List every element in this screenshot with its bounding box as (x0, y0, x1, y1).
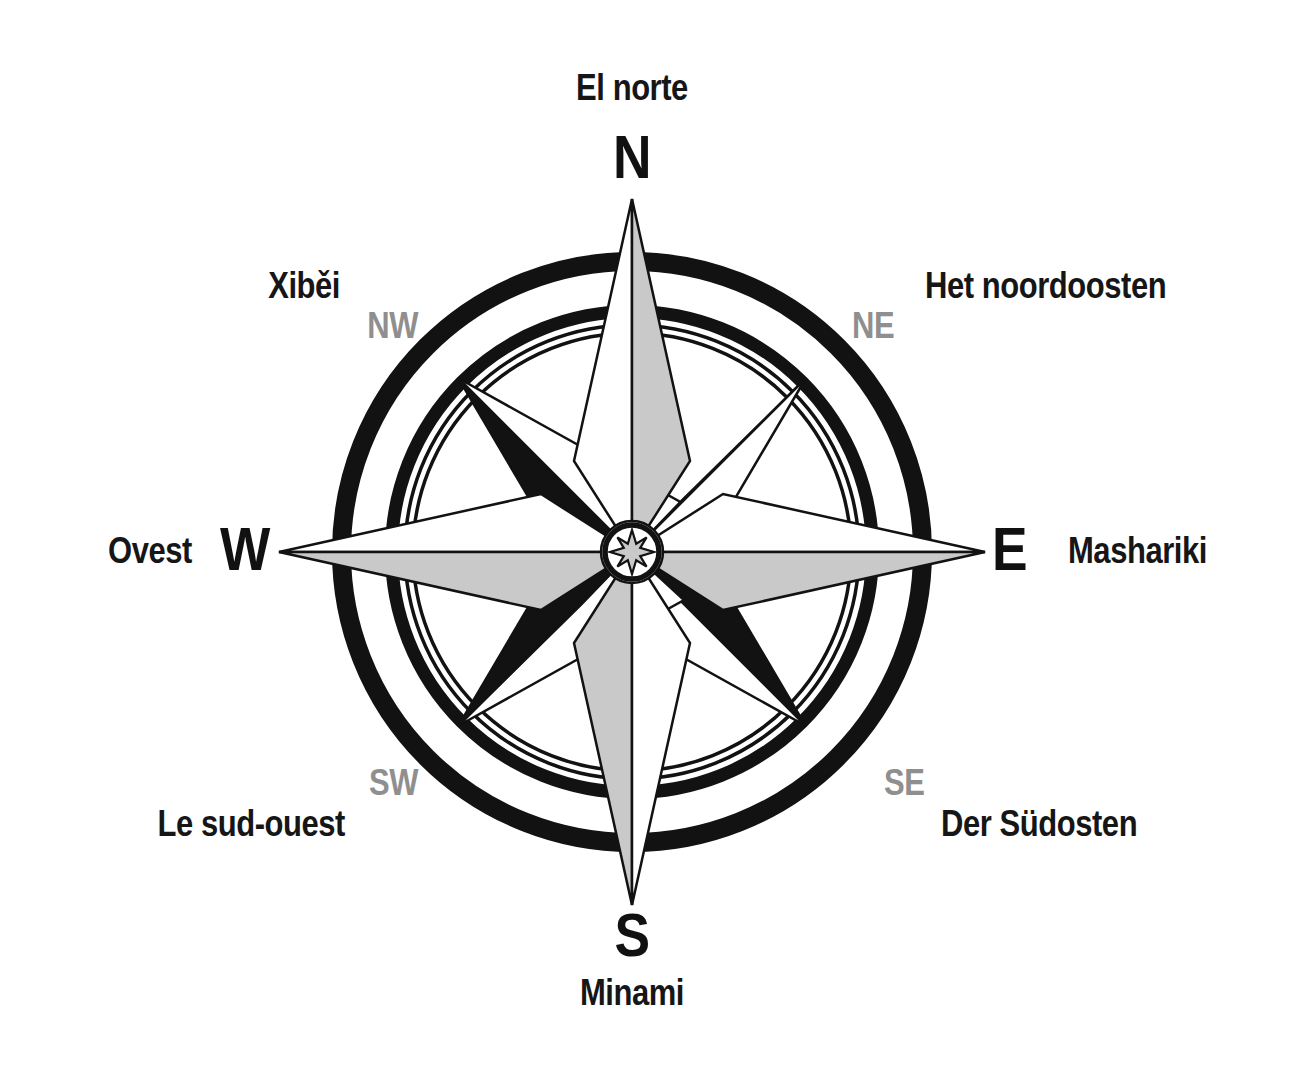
center-medallion (601, 521, 663, 583)
label-east-abbrev: E (992, 518, 1027, 580)
label-northwest-abbrev: NW (367, 308, 418, 344)
label-northeast-language: Het noordoosten (925, 268, 1166, 304)
label-south-language: Minami (580, 975, 684, 1011)
label-east-language: Mashariki (1068, 533, 1207, 569)
label-southeast-abbrev: SE (884, 765, 924, 801)
label-north-abbrev: N (613, 126, 651, 188)
label-northeast-abbrev: NE (852, 308, 894, 344)
label-west-abbrev: W (220, 518, 270, 580)
label-southwest-abbrev: SW (369, 765, 418, 801)
label-south-abbrev: S (614, 904, 649, 966)
compass-rose-figure: El norte N Het noordoosten NE E Masharik… (0, 0, 1309, 1075)
label-northwest-language: Xiběi (268, 268, 340, 304)
label-west-language: Ovest (108, 533, 192, 569)
label-southeast-language: Der Südosten (941, 806, 1137, 842)
label-north-language: El norte (576, 70, 688, 106)
label-southwest-language: Le sud-ouest (158, 806, 345, 842)
